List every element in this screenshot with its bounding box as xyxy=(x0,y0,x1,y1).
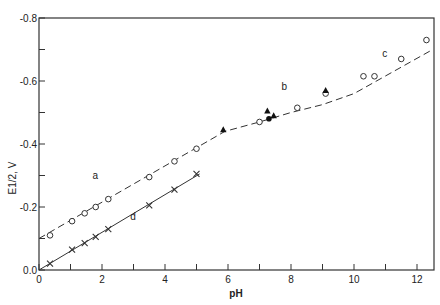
open-circle-marker xyxy=(146,174,152,180)
cross-marker xyxy=(82,240,88,246)
filled-triangle-marker xyxy=(270,112,276,118)
open-circle-marker xyxy=(257,119,263,125)
y-axis: 0.0-0.2-0.4-0.6-0.8 xyxy=(20,13,45,276)
x-tick-label: 6 xyxy=(225,274,231,285)
curve-labels: abcd xyxy=(93,48,388,221)
y-axis-label: E1/2, V xyxy=(7,161,18,194)
curve-label-d: d xyxy=(130,211,136,222)
y-tick-label: -0.2 xyxy=(20,202,38,213)
y-tick-label: 0.0 xyxy=(23,265,37,276)
y-tick-label: -0.8 xyxy=(20,13,38,24)
cross-marker xyxy=(105,226,111,232)
open-circle-marker xyxy=(82,211,88,217)
x-tick-label: 4 xyxy=(162,274,168,285)
open-circle-marker xyxy=(106,196,112,202)
data-points xyxy=(47,37,429,266)
y-tick-label: -0.6 xyxy=(20,76,38,87)
curve-label-c: c xyxy=(382,48,387,59)
plot-frame xyxy=(39,18,434,270)
x-axis-label: pH xyxy=(229,288,242,299)
open-circle-marker xyxy=(93,204,99,210)
open-circle-marker xyxy=(372,73,378,79)
fit-lines xyxy=(39,50,433,271)
open-circle-marker xyxy=(47,233,53,239)
x-tick-label: 12 xyxy=(411,274,423,285)
filled-triangle-marker xyxy=(220,126,226,132)
filled-triangle-marker xyxy=(264,107,270,113)
x-axis: 024681012 xyxy=(36,264,423,285)
open-circle-marker xyxy=(398,56,404,62)
chart: 024681012 0.0-0.2-0.4-0.6-0.8 abcd pH E1… xyxy=(0,0,440,305)
x-tick-label: 2 xyxy=(99,274,105,285)
curve-label-b: b xyxy=(282,81,288,92)
open-circle-marker xyxy=(295,105,301,111)
x-tick-label: 10 xyxy=(348,274,360,285)
cross-marker xyxy=(47,261,53,267)
filled-circle-marker xyxy=(266,116,272,122)
filled-triangle-marker xyxy=(322,87,328,93)
open-circle-marker xyxy=(424,37,430,43)
x-tick-label: 8 xyxy=(288,274,294,285)
open-circle-marker xyxy=(172,159,178,165)
y-tick-label: -0.4 xyxy=(20,139,38,150)
open-circle-marker xyxy=(69,218,75,224)
open-circle-marker xyxy=(361,73,367,79)
plot-border xyxy=(39,18,434,270)
curve-label-a: a xyxy=(93,170,99,181)
open-circle-marker xyxy=(194,146,200,152)
x-tick-label: 0 xyxy=(36,274,42,285)
